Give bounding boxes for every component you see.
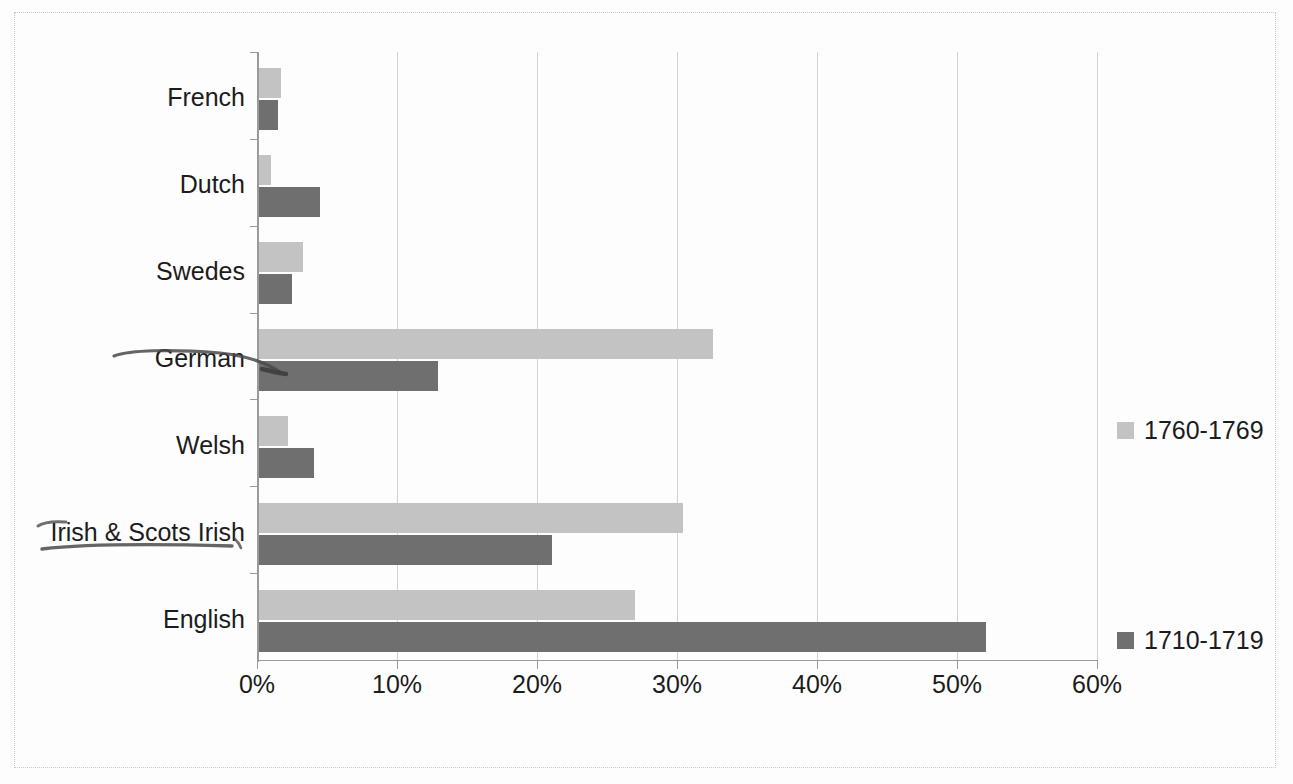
plot-area — [257, 52, 1097, 660]
bar-1710-1719-french — [257, 100, 278, 130]
bar-chart: 0%10%20%30%40%50%60%EnglishIrish & Scots… — [0, 0, 1293, 784]
x-tick-50% — [957, 660, 958, 669]
x-axis-label-10%: 10% — [372, 672, 422, 697]
y-tick — [250, 313, 257, 314]
legend-item-1710-1719[interactable]: 1710-1719 — [1117, 628, 1264, 653]
gridline-60% — [1097, 52, 1098, 660]
chart-page: 0%10%20%30%40%50%60%EnglishIrish & Scots… — [0, 0, 1293, 784]
category-label-swedes: Swedes — [0, 259, 245, 284]
x-axis-label-20%: 20% — [512, 672, 562, 697]
bar-1710-1719-german — [257, 361, 438, 391]
bar-1710-1719-swedes — [257, 274, 292, 304]
x-axis-label-60%: 60% — [1072, 672, 1122, 697]
x-tick-0% — [257, 660, 258, 669]
bar-1760-1769-swedes — [257, 242, 303, 272]
bar-1760-1769-french — [257, 68, 281, 98]
bar-1710-1719-irish-scots-irish — [257, 535, 552, 565]
y-tick — [250, 573, 257, 574]
category-label-welsh: Welsh — [0, 433, 245, 458]
category-label-dutch: Dutch — [0, 172, 245, 197]
legend-label-1710-1719: 1710-1719 — [1144, 628, 1264, 653]
y-tick — [250, 486, 257, 487]
legend-swatch-1710-1719 — [1117, 632, 1134, 649]
y-axis-line — [257, 52, 259, 662]
gridline-40% — [817, 52, 818, 660]
legend-item-1760-1769[interactable]: 1760-1769 — [1117, 418, 1264, 443]
y-tick — [250, 226, 257, 227]
y-tick — [250, 399, 257, 400]
x-axis-label-30%: 30% — [652, 672, 702, 697]
category-label-french: French — [0, 85, 245, 110]
category-label-german: German — [0, 346, 245, 371]
category-label-irish-scots-irish: Irish & Scots Irish — [0, 520, 245, 545]
x-axis-label-50%: 50% — [932, 672, 982, 697]
x-tick-40% — [817, 660, 818, 669]
bar-1710-1719-welsh — [257, 448, 314, 478]
y-tick — [250, 139, 257, 140]
x-tick-30% — [677, 660, 678, 669]
legend-swatch-1760-1769 — [1117, 422, 1134, 439]
x-tick-60% — [1097, 660, 1098, 669]
gridline-50% — [957, 52, 958, 660]
bar-1760-1769-dutch — [257, 155, 271, 185]
legend-label-1760-1769: 1760-1769 — [1144, 418, 1264, 443]
x-axis-label-0%: 0% — [239, 672, 275, 697]
x-tick-20% — [537, 660, 538, 669]
y-tick — [250, 52, 257, 53]
bar-1710-1719-dutch — [257, 187, 320, 217]
bar-1760-1769-english — [257, 590, 635, 620]
x-tick-10% — [397, 660, 398, 669]
bar-1760-1769-welsh — [257, 416, 288, 446]
category-label-english: English — [0, 607, 245, 632]
bar-1710-1719-english — [257, 622, 986, 652]
bar-1760-1769-irish-scots-irish — [257, 503, 683, 533]
bar-1760-1769-german — [257, 329, 713, 359]
x-axis-label-40%: 40% — [792, 672, 842, 697]
